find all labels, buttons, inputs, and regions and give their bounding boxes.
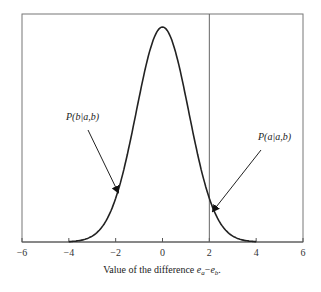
annotation-arrow-left	[88, 130, 118, 192]
x-tick-label: −6	[17, 247, 28, 258]
x-tick-label: −4	[64, 247, 75, 258]
x-tick-label: 0	[160, 247, 165, 258]
x-axis-title-prefix: Value of the difference	[103, 264, 197, 275]
annotation-arrow-right	[213, 150, 261, 211]
x-axis-title: Value of the difference ea−eb.	[103, 264, 221, 277]
x-axis-title-suffix: .	[218, 264, 221, 275]
x-tick-label: −2	[110, 247, 121, 258]
annotation-p-b-given-ab: P(b|a,b)	[65, 111, 100, 123]
x-tick-label: 6	[301, 247, 306, 258]
chart: −6−4−20246 P(b|a,b) P(a|a,b) Value of th…	[0, 0, 321, 292]
series-line-density	[69, 27, 256, 242]
plot-frame	[22, 14, 303, 242]
x-ticks	[22, 238, 303, 242]
annotation-p-a-given-ab: P(a|a,b)	[257, 131, 292, 143]
x-tick-labels: −6−4−20246	[17, 247, 306, 258]
x-tick-label: 2	[207, 247, 212, 258]
x-tick-label: 4	[254, 247, 259, 258]
